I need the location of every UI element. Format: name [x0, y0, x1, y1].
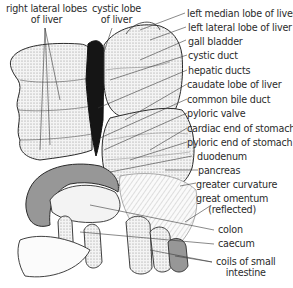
label-pyloric-end: pyloric end of stomach	[187, 137, 292, 148]
label-pyloric-valve: pyloric valve	[187, 108, 245, 119]
label-line: great omentum	[196, 193, 268, 204]
label-line: cystic lobe	[92, 3, 141, 14]
label-great-omentum: great omentum (reflected)	[196, 193, 268, 215]
label-left-lateral-lobe: left lateral lobe of liver	[188, 22, 292, 33]
colon-shape	[26, 164, 120, 226]
label-line: of liver	[92, 14, 141, 25]
label-cystic-lobe: cystic lobe of liver	[92, 3, 141, 25]
label-caudate-lobe: caudate lobe of liver	[187, 79, 281, 90]
label-duodenum: duodenum	[197, 151, 247, 162]
right-lateral-lobes-shape	[10, 43, 92, 160]
label-hepatic-ducts: hepatic ducts	[188, 65, 250, 76]
label-left-median-lobe: left median lobe of liver	[187, 8, 293, 19]
label-line: of liver	[6, 14, 87, 25]
label-coils-small-intestine: coils of small intestine	[216, 256, 276, 278]
label-line: intestine	[216, 267, 276, 278]
label-cardiac-end: cardiac end of stomach	[187, 123, 293, 134]
label-caecum: caecum	[218, 238, 255, 249]
label-line: right lateral lobes	[6, 3, 87, 14]
label-line: coils of small	[216, 256, 276, 267]
label-common-bile-duct: common bile duct	[187, 94, 270, 105]
label-pancreas: pancreas	[198, 165, 240, 176]
left-liver-lobes-shape	[104, 22, 183, 118]
label-gall-bladder: gall bladder	[188, 36, 243, 47]
label-cystic-duct: cystic duct	[188, 50, 238, 61]
label-greater-curvature: greater curvature	[196, 179, 277, 190]
label-colon: colon	[218, 224, 243, 235]
anatomy-figure: right lateral lobes of liver cystic lobe…	[0, 0, 293, 288]
label-line: (reflected)	[196, 204, 268, 215]
label-right-lateral-lobes: right lateral lobes of liver	[6, 3, 87, 25]
